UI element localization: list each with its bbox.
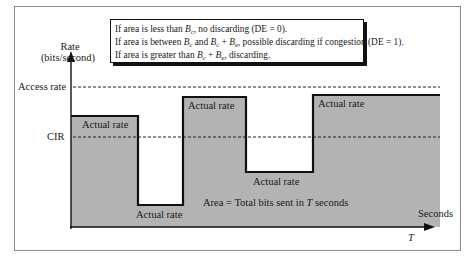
cir-label: CIR — [47, 132, 65, 143]
x-axis-label: Seconds — [418, 209, 453, 220]
note-line-2: If area is between Bc and Bc + Be, possi… — [115, 36, 359, 49]
area-caption: Area = Total bits sent in T seconds — [203, 198, 348, 209]
actual-rate-label-1: Actual rate — [82, 120, 128, 131]
actual-rate-label-5: Actual rate — [318, 99, 364, 110]
area-caption-prefix: Area = Total bits sent in — [203, 197, 307, 208]
y-axis-label: Rate (bits/second) — [44, 41, 96, 63]
access-rate-label: Access rate — [18, 82, 66, 93]
x-axis-end-var: T — [408, 232, 414, 243]
actual-rate-label-4: Actual rate — [253, 177, 299, 188]
note-line-3: If area is greater than Bc + Be, discard… — [115, 49, 359, 62]
note-line-1: If area is less than Bc, no discarding (… — [115, 23, 359, 36]
y-axis-label-line1: Rate — [44, 41, 96, 52]
y-axis-label-line2: (bits/second) — [40, 52, 96, 63]
x-axis-end-label: T — [408, 233, 414, 244]
actual-rate-label-3: Actual rate — [188, 101, 234, 112]
discard-rules-note: If area is less than Bc, no discarding (… — [110, 19, 364, 63]
area-caption-suffix: seconds — [312, 197, 348, 208]
actual-rate-label-2: Actual rate — [136, 210, 182, 221]
